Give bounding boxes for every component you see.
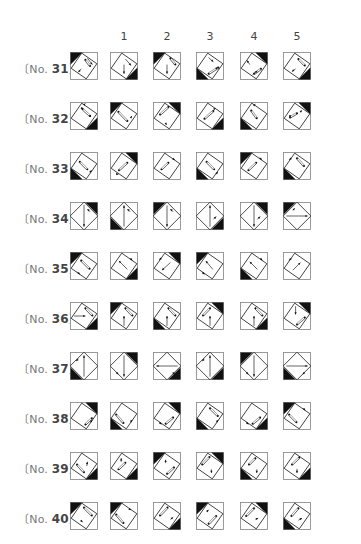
answer-option-1[interactable] [110, 152, 138, 180]
question-row-33: 〔No. 33〕 [0, 152, 361, 182]
option-figure-icon [196, 52, 224, 80]
answer-option-3[interactable] [196, 102, 224, 130]
option-figure-icon [240, 502, 268, 530]
option-figure-icon [240, 452, 268, 480]
question-figure [70, 202, 98, 230]
answer-option-2[interactable] [153, 152, 181, 180]
answer-option-5[interactable] [283, 452, 311, 480]
answer-option-1[interactable] [110, 252, 138, 280]
option-figure-icon [240, 402, 268, 430]
question-figure [70, 302, 98, 330]
option-figure-icon [110, 302, 138, 330]
answer-option-3[interactable] [196, 52, 224, 80]
option-figure-icon [240, 252, 268, 280]
answer-option-5[interactable] [283, 502, 311, 530]
answer-option-2[interactable] [153, 202, 181, 230]
question-figure-icon [70, 152, 98, 180]
option-figure-icon [110, 452, 138, 480]
question-figure [70, 452, 98, 480]
column-number-5: 5 [283, 30, 311, 43]
answer-option-3[interactable] [196, 202, 224, 230]
answer-option-1[interactable] [110, 402, 138, 430]
answer-option-2[interactable] [153, 52, 181, 80]
answer-option-5[interactable] [283, 102, 311, 130]
answer-option-3[interactable] [196, 402, 224, 430]
answer-option-5[interactable] [283, 152, 311, 180]
answer-option-4[interactable] [240, 402, 268, 430]
question-figure-icon [70, 302, 98, 330]
answer-option-2[interactable] [153, 302, 181, 330]
option-figure-icon [196, 152, 224, 180]
answer-option-4[interactable] [240, 102, 268, 130]
option-figure-icon [283, 252, 311, 280]
option-figure-icon [153, 302, 181, 330]
question-row-34: 〔No. 34〕 [0, 202, 361, 232]
option-figure-icon [110, 52, 138, 80]
column-number-1: 1 [110, 30, 138, 43]
option-figure-icon [110, 352, 138, 380]
question-figure-icon [70, 502, 98, 530]
answer-option-4[interactable] [240, 302, 268, 330]
column-number-3: 3 [196, 30, 224, 43]
option-figure-icon [110, 152, 138, 180]
answer-option-3[interactable] [196, 152, 224, 180]
answer-option-2[interactable] [153, 402, 181, 430]
answer-option-5[interactable] [283, 202, 311, 230]
answer-option-4[interactable] [240, 202, 268, 230]
question-figure-icon [70, 252, 98, 280]
answer-option-5[interactable] [283, 252, 311, 280]
answer-option-1[interactable] [110, 452, 138, 480]
answer-option-5[interactable] [283, 402, 311, 430]
answer-option-1[interactable] [110, 102, 138, 130]
question-figure [70, 52, 98, 80]
option-figure-icon [196, 352, 224, 380]
option-figure-icon [153, 252, 181, 280]
answer-option-3[interactable] [196, 452, 224, 480]
answer-option-1[interactable] [110, 502, 138, 530]
option-figure-icon [110, 202, 138, 230]
answer-option-3[interactable] [196, 302, 224, 330]
answer-option-5[interactable] [283, 352, 311, 380]
answer-option-4[interactable] [240, 452, 268, 480]
answer-option-1[interactable] [110, 202, 138, 230]
question-figure [70, 502, 98, 530]
answer-option-5[interactable] [283, 52, 311, 80]
option-figure-icon [196, 402, 224, 430]
question-figure-icon [70, 52, 98, 80]
option-figure-icon [110, 102, 138, 130]
answer-option-4[interactable] [240, 502, 268, 530]
question-figure [70, 352, 98, 380]
option-figure-icon [153, 102, 181, 130]
option-figure-icon [283, 52, 311, 80]
option-figure-icon [153, 52, 181, 80]
option-figure-icon [283, 402, 311, 430]
question-figure-icon [70, 102, 98, 130]
option-figure-icon [153, 402, 181, 430]
question-figure [70, 252, 98, 280]
answer-option-2[interactable] [153, 352, 181, 380]
answer-option-3[interactable] [196, 252, 224, 280]
answer-option-1[interactable] [110, 52, 138, 80]
answer-option-4[interactable] [240, 152, 268, 180]
column-number-2: 2 [153, 30, 181, 43]
column-number-4: 4 [240, 30, 268, 43]
answer-option-5[interactable] [283, 302, 311, 330]
answer-option-2[interactable] [153, 502, 181, 530]
question-row-36: 〔No. 36〕 [0, 302, 361, 332]
answer-option-4[interactable] [240, 252, 268, 280]
answer-option-4[interactable] [240, 352, 268, 380]
answer-option-3[interactable] [196, 502, 224, 530]
answer-option-2[interactable] [153, 452, 181, 480]
answer-option-1[interactable] [110, 352, 138, 380]
option-figure-icon [196, 202, 224, 230]
question-figure-icon [70, 202, 98, 230]
option-figure-icon [283, 152, 311, 180]
option-figure-icon [153, 502, 181, 530]
option-figure-icon [240, 152, 268, 180]
answer-option-1[interactable] [110, 302, 138, 330]
answer-option-2[interactable] [153, 252, 181, 280]
answer-option-4[interactable] [240, 52, 268, 80]
answer-option-3[interactable] [196, 352, 224, 380]
answer-option-2[interactable] [153, 102, 181, 130]
question-figure [70, 102, 98, 130]
